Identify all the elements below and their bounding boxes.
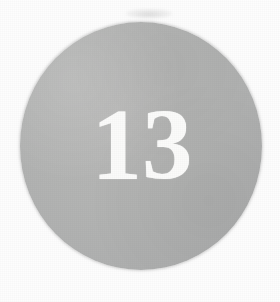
- badge-number-label: 13: [92, 95, 193, 196]
- numbered-circle-badge[interactable]: 13: [20, 22, 262, 270]
- scan-smudge-artifact: [126, 9, 172, 18]
- page-canvas: 13: [0, 0, 280, 302]
